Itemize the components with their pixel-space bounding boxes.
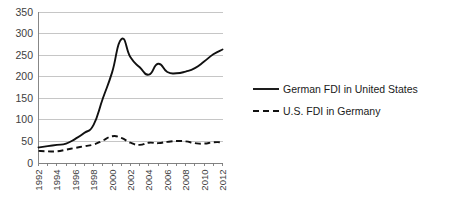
x-tick-label-2006: 2006 — [162, 170, 173, 191]
chart-canvas: 050100150200250300350 199219941996199820… — [0, 0, 455, 197]
x-tick-label-1994: 1994 — [51, 170, 62, 191]
y-tick-label-300: 300 — [15, 27, 33, 39]
y-tick-label-50: 50 — [21, 135, 33, 147]
x-tick-label-2004: 2004 — [143, 170, 154, 191]
chart-legend: German FDI in United StatesU.S. FDI in G… — [253, 83, 418, 117]
y-tick-label-150: 150 — [15, 92, 33, 104]
y-tick-label-250: 250 — [15, 49, 33, 61]
y-tick-label-200: 200 — [15, 70, 33, 82]
y-tick-label-350: 350 — [15, 6, 33, 18]
x-tick-label-1992: 1992 — [33, 170, 44, 191]
x-axis-tick-labels: 1992199419961998200020022004200620082010… — [33, 170, 228, 191]
x-tick-label-2012: 2012 — [217, 170, 228, 191]
x-tick-label-1996: 1996 — [70, 170, 81, 191]
x-tick-label-1998: 1998 — [88, 170, 99, 191]
y-axis-tick-labels: 050100150200250300350 — [15, 6, 33, 169]
y-tick-label-0: 0 — [27, 157, 33, 169]
legend-label-1: U.S. FDI in Germany — [283, 105, 381, 117]
x-tick-label-2008: 2008 — [180, 170, 191, 191]
fdi-line-chart: 050100150200250300350 199219941996199820… — [0, 0, 455, 197]
y-tick-label-100: 100 — [15, 113, 33, 125]
x-tick-label-2000: 2000 — [107, 170, 118, 191]
legend-label-0: German FDI in United States — [283, 83, 418, 95]
x-tick-label-2002: 2002 — [125, 170, 136, 191]
y-gridlines — [39, 12, 223, 163]
x-tick-label-2010: 2010 — [199, 170, 210, 191]
